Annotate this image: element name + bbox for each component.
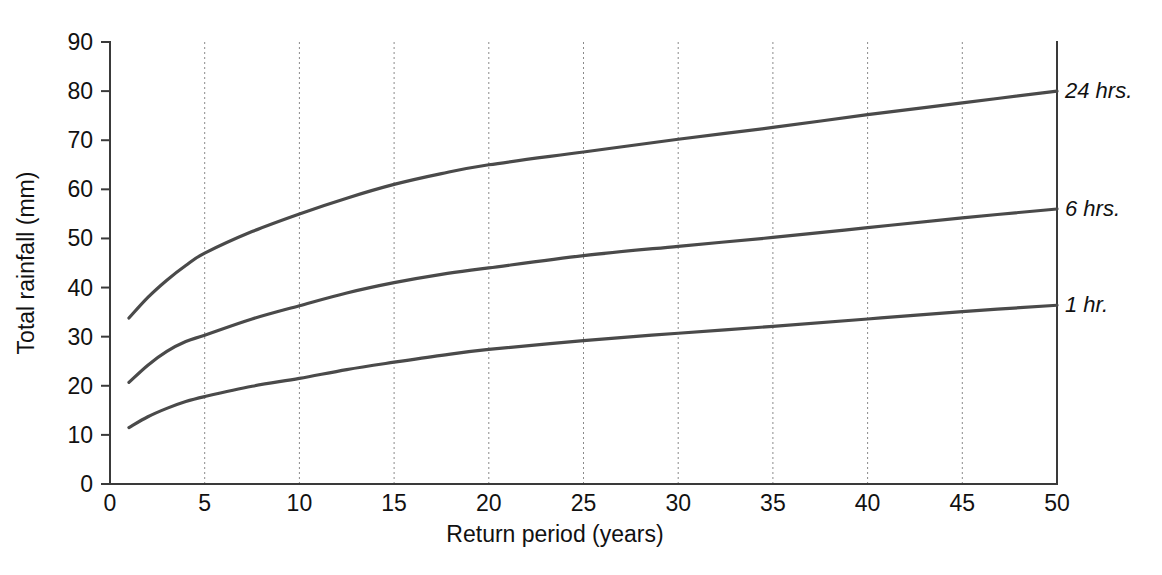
x-tick-label: 5 xyxy=(198,490,211,516)
y-axis-tick-labels: 0102030405060708090 xyxy=(67,29,93,497)
series-label-6-hrs-: 6 hrs. xyxy=(1065,196,1120,221)
x-tick-label: 35 xyxy=(760,490,786,516)
x-axis-title: Return period (years) xyxy=(446,521,663,547)
series-line-24-hrs- xyxy=(129,91,1057,318)
series-inline-labels: 24 hrs.6 hrs.1 hr. xyxy=(1064,78,1132,317)
y-tick-label: 90 xyxy=(67,29,93,55)
series-label-1-hr-: 1 hr. xyxy=(1065,292,1108,317)
rainfall-return-period-chart: 0102030405060708090 05101520253035404550… xyxy=(0,0,1162,575)
y-tick-label: 40 xyxy=(67,275,93,301)
data-series-lines xyxy=(129,91,1057,427)
grid-lines xyxy=(205,42,963,484)
x-tick-label: 30 xyxy=(665,490,691,516)
y-tick-label: 30 xyxy=(67,324,93,350)
x-tick-label: 0 xyxy=(104,490,117,516)
x-tick-label: 45 xyxy=(950,490,976,516)
x-tick-label: 50 xyxy=(1044,490,1070,516)
x-axis-tick-labels: 05101520253035404550 xyxy=(104,490,1070,516)
y-tick-label: 20 xyxy=(67,373,93,399)
y-tick-label: 50 xyxy=(67,225,93,251)
series-line-1-hr- xyxy=(129,305,1057,427)
y-tick-label: 80 xyxy=(67,78,93,104)
x-tick-label: 40 xyxy=(855,490,881,516)
series-label-24-hrs-: 24 hrs. xyxy=(1064,78,1132,103)
x-tick-label: 20 xyxy=(476,490,502,516)
series-line-6-hrs- xyxy=(129,209,1057,382)
y-tick-label: 10 xyxy=(67,422,93,448)
chart-canvas: 0102030405060708090 05101520253035404550… xyxy=(0,0,1162,575)
y-tick-label: 70 xyxy=(67,127,93,153)
y-tick-label: 60 xyxy=(67,176,93,202)
tick-marks xyxy=(101,42,110,484)
x-tick-label: 15 xyxy=(381,490,407,516)
y-axis-title: Total rainfall (mm) xyxy=(13,172,39,355)
y-tick-label: 0 xyxy=(80,471,93,497)
x-tick-label: 25 xyxy=(571,490,597,516)
x-tick-label: 10 xyxy=(287,490,313,516)
